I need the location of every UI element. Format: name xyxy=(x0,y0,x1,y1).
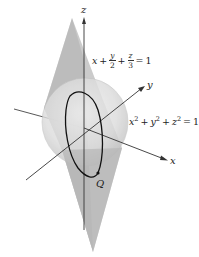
sphere-eq-equals: = xyxy=(183,116,191,127)
plane-equation: x + y 2 + z 3 = 1 xyxy=(92,52,152,69)
plane-front-lower xyxy=(62,148,122,252)
sphere-eq-y: y2 xyxy=(150,116,160,127)
plane-eq-x: x xyxy=(92,55,97,66)
plane-eq-plus2: + xyxy=(118,55,126,66)
plane-eq-equals: = xyxy=(136,55,144,66)
frac-z-num: z xyxy=(128,52,134,61)
sphere-equation: x2 + y2 + z2 = 1 xyxy=(129,116,199,127)
point-q-marker xyxy=(96,171,99,174)
diagram-canvas xyxy=(0,0,199,257)
plane-eq-frac-y: y 2 xyxy=(109,52,115,69)
sphere-eq-plus2: + xyxy=(162,116,170,127)
sphere-eq-rhs: 1 xyxy=(193,116,199,127)
y-axis-label: y xyxy=(147,80,153,90)
frac-y-num: y xyxy=(109,52,115,61)
plane-eq-frac-z: z 3 xyxy=(128,52,134,69)
sphere-eq-plus1: + xyxy=(141,116,149,127)
point-q-label: Q xyxy=(96,179,104,189)
frac-y-den: 2 xyxy=(110,61,115,69)
sphere-eq-x: x2 xyxy=(129,116,139,127)
plane-eq-rhs: 1 xyxy=(145,55,151,66)
plane-eq-plus1: + xyxy=(99,55,107,66)
sphere-eq-z: z2 xyxy=(172,116,181,127)
frac-z-den: 3 xyxy=(128,61,133,69)
x-axis-label: x xyxy=(170,156,176,166)
z-axis-label: z xyxy=(81,5,86,15)
